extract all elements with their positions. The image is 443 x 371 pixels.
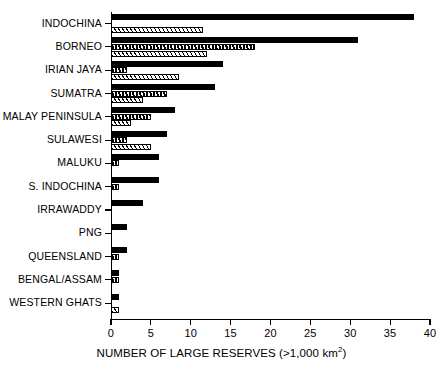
bar-sumatra-total bbox=[111, 84, 215, 90]
bar-borneo-mid bbox=[111, 44, 255, 50]
x-tick-label-10: 10 bbox=[176, 327, 206, 339]
bar-irrawaddy-total bbox=[111, 200, 143, 206]
y-tick-5 bbox=[105, 140, 111, 141]
category-label-borneo: BORNEO bbox=[0, 41, 102, 52]
y-tick-4 bbox=[105, 116, 111, 117]
x-tick-label-15: 15 bbox=[216, 327, 246, 339]
bar-sulawesi-mid bbox=[111, 137, 127, 143]
category-label-irian-jaya: IRIAN JAYA bbox=[0, 64, 102, 75]
x-tick-30 bbox=[350, 319, 351, 325]
category-label-irrawaddy: IRRAWADDY bbox=[0, 204, 102, 215]
x-tick-label-35: 35 bbox=[375, 327, 405, 339]
bar-maluku-total bbox=[111, 154, 159, 160]
x-tick-15 bbox=[230, 319, 231, 325]
category-label-bengal-assam: BENGAL/ASSAM bbox=[0, 274, 102, 285]
bar-png-total bbox=[111, 224, 127, 230]
x-axis-label-tail: ) bbox=[342, 347, 346, 359]
y-tick-0 bbox=[105, 23, 111, 24]
x-tick-5 bbox=[150, 319, 151, 325]
bar-malay-peninsula-mid bbox=[111, 114, 151, 120]
category-label-sulawesi: SULAWESI bbox=[0, 134, 102, 145]
x-axis-label-main: NUMBER OF LARGE RESERVES (>1,000 km bbox=[97, 347, 338, 359]
bar-western-ghats-low bbox=[111, 307, 119, 313]
category-label-png: PNG bbox=[0, 227, 102, 238]
bar-indochina-low bbox=[111, 27, 203, 33]
bar-irian-jaya-total bbox=[111, 61, 223, 67]
bar-sumatra-low bbox=[111, 97, 143, 103]
y-tick-11 bbox=[105, 279, 111, 280]
bar-queensland-mid bbox=[111, 254, 119, 260]
x-tick-label-30: 30 bbox=[335, 327, 365, 339]
x-tick-label-20: 20 bbox=[256, 327, 286, 339]
bar-malay-peninsula-low bbox=[111, 120, 131, 126]
x-tick-40 bbox=[429, 319, 430, 325]
x-tick-label-40: 40 bbox=[415, 327, 443, 339]
y-tick-1 bbox=[105, 46, 111, 47]
bar-bengal-assam-mid bbox=[111, 277, 119, 283]
bar-bengal-assam-total bbox=[111, 270, 119, 276]
x-tick-label-25: 25 bbox=[295, 327, 325, 339]
y-tick-2 bbox=[105, 70, 111, 71]
bar-sumatra-mid bbox=[111, 91, 167, 97]
plot-area bbox=[111, 12, 430, 319]
y-tick-9 bbox=[105, 233, 111, 234]
x-tick-25 bbox=[310, 319, 311, 325]
bar-malay-peninsula-total bbox=[111, 107, 175, 113]
x-tick-10 bbox=[190, 319, 191, 325]
y-tick-8 bbox=[105, 209, 111, 210]
x-tick-label-0: 0 bbox=[96, 327, 126, 339]
bar-sulawesi-total bbox=[111, 131, 167, 137]
bar-s-indochina-total bbox=[111, 177, 159, 183]
x-tick-label-5: 5 bbox=[136, 327, 166, 339]
x-tick-35 bbox=[390, 319, 391, 325]
bar-indochina-total bbox=[111, 14, 414, 20]
bar-western-ghats-total bbox=[111, 294, 119, 300]
bar-maluku-mid bbox=[111, 160, 119, 166]
category-label-maluku: MALUKU bbox=[0, 157, 102, 168]
bar-irian-jaya-low bbox=[111, 74, 179, 80]
category-label-s-indochina: S. INDOCHINA bbox=[0, 181, 102, 192]
category-label-queensland: QUEENSLAND bbox=[0, 251, 102, 262]
y-tick-3 bbox=[105, 93, 111, 94]
x-tick-0 bbox=[110, 319, 111, 325]
x-tick-20 bbox=[270, 319, 271, 325]
bar-irian-jaya-mid bbox=[111, 67, 127, 73]
y-tick-12 bbox=[105, 303, 111, 304]
horizontal-bar-chart: 0510152025303540 INDOCHINABORNEOIRIAN JA… bbox=[0, 0, 443, 371]
bar-s-indochina-mid bbox=[111, 184, 119, 190]
x-axis-label: NUMBER OF LARGE RESERVES (>1,000 km2) bbox=[0, 345, 443, 359]
bar-borneo-total bbox=[111, 37, 358, 43]
bar-queensland-total bbox=[111, 247, 127, 253]
category-label-indochina: INDOCHINA bbox=[0, 18, 102, 29]
bar-sulawesi-low bbox=[111, 144, 151, 150]
y-tick-10 bbox=[105, 256, 111, 257]
category-label-sumatra: SUMATRA bbox=[0, 88, 102, 99]
y-tick-6 bbox=[105, 163, 111, 164]
category-label-western-ghats: WESTERN GHATS bbox=[0, 297, 102, 308]
category-label-malay-peninsula: MALAY PENINSULA bbox=[0, 111, 102, 122]
bar-borneo-low bbox=[111, 51, 207, 57]
y-tick-7 bbox=[105, 186, 111, 187]
